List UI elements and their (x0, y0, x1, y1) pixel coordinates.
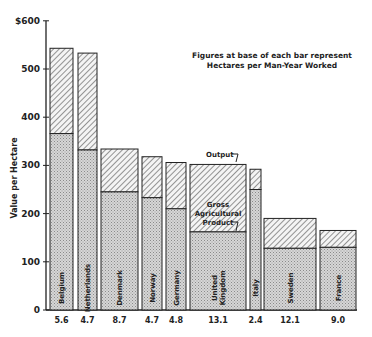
category-label: Kingdom (219, 271, 227, 306)
y-tick-label: 0 (34, 305, 40, 315)
annotation-output: Output (206, 151, 234, 159)
hectares-value: 5.6 (54, 316, 69, 325)
output-segment (50, 48, 73, 133)
annotation-gap: Product (203, 219, 235, 227)
y-tick-label: 300 (21, 160, 40, 170)
hectares-value: 4.8 (169, 316, 184, 325)
output-segment (264, 218, 316, 248)
annotation-gap: Agricultural (195, 210, 242, 218)
chart-note: Figures at base of each bar represent (192, 51, 352, 60)
y-tick-label: $600 (15, 16, 40, 26)
hectares-value: 13.1 (208, 316, 228, 325)
y-tick-label: 500 (21, 64, 40, 74)
bar-belgium (50, 48, 73, 310)
category-label: Netherlands (84, 264, 92, 312)
hectares-value: 12.1 (280, 316, 300, 325)
hectares-value: 4.7 (80, 316, 94, 325)
category-label: Sweden (287, 272, 295, 303)
hectares-value: 9.0 (331, 316, 346, 325)
category-label: Germany (173, 270, 181, 306)
output-segment (250, 169, 261, 189)
y-tick-label: 400 (21, 112, 40, 122)
stacked-bar-chart: 0100200300400500$600 Value per HectareBe… (0, 0, 372, 337)
bars (50, 48, 356, 310)
category-label: United (211, 275, 219, 301)
hectares-value: 2.4 (248, 316, 263, 325)
y-tick-label: 200 (21, 209, 40, 219)
annotation-gap: Gross (207, 201, 229, 209)
y-tick-label: 100 (21, 257, 40, 267)
category-label: Norway (149, 273, 157, 303)
hectares-value: 8.7 (112, 316, 126, 325)
category-label: France (335, 275, 343, 302)
output-segment (101, 149, 138, 192)
output-segment (166, 163, 186, 209)
output-segment (142, 157, 162, 198)
hectares-value: 4.7 (145, 316, 159, 325)
y-axis-label: Value per Hectare (10, 137, 19, 219)
category-label: Italy (252, 279, 260, 297)
category-label: Belgium (58, 272, 66, 304)
chart-note: Hectares per Man-Year Worked (207, 61, 337, 70)
output-segment (78, 53, 97, 150)
output-segment (320, 230, 356, 247)
category-label: Denmark (116, 270, 124, 306)
